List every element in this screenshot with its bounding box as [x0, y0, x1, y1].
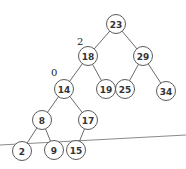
node-label: 34 [160, 87, 173, 97]
tree-node-23: 23 [107, 15, 126, 34]
node-label: 25 [119, 85, 132, 95]
tree-node-18: 18 [79, 47, 98, 66]
node-label: 19 [100, 85, 113, 95]
node-label: 8 [39, 116, 45, 126]
node-label: 17 [82, 116, 95, 126]
tree-node-25: 25 [116, 80, 135, 99]
tree-diagram: 231829141925348172915 20 [0, 0, 186, 169]
node-label: 23 [110, 20, 123, 30]
tree-node-29: 29 [134, 47, 153, 66]
tree-edges [22, 24, 166, 151]
tree-node-15: 15 [67, 141, 86, 160]
node-label: 15 [70, 146, 83, 156]
tree-nodes: 231829141925348172915 [13, 15, 176, 161]
tree-node-2: 2 [13, 142, 32, 161]
tree-node-34: 34 [157, 82, 176, 101]
node-label: 29 [137, 52, 150, 62]
balance-annotation: 0 [51, 67, 57, 78]
node-label: 9 [51, 146, 57, 156]
node-label: 18 [82, 52, 95, 62]
node-label: 2 [19, 147, 25, 157]
tree-node-8: 8 [33, 111, 52, 130]
tree-node-19: 19 [97, 80, 116, 99]
tree-node-14: 14 [55, 80, 74, 99]
tree-node-17: 17 [79, 111, 98, 130]
node-label: 14 [58, 85, 71, 95]
balance-annotation: 2 [77, 36, 83, 47]
tree-node-9: 9 [45, 141, 64, 160]
